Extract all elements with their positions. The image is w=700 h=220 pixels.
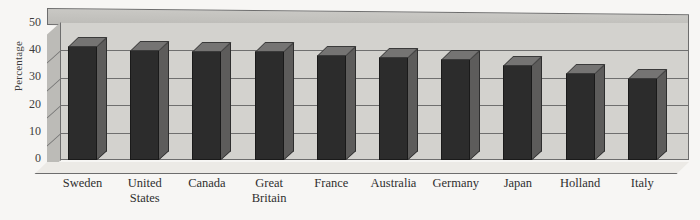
bar-side-face — [470, 50, 480, 160]
x-label-line: States — [106, 191, 184, 206]
y-axis-tick-labels: 50403020100 — [0, 0, 46, 220]
x-label-line: Britain — [230, 191, 308, 206]
bar-australia — [379, 57, 408, 160]
bar-germany — [441, 59, 470, 160]
bar-sweden — [68, 46, 97, 160]
bar-italy — [628, 78, 657, 160]
x-label-italy: Italy — [603, 176, 681, 191]
bar-front-face — [68, 46, 97, 160]
bar-side-face — [284, 42, 294, 160]
bar-japan — [503, 65, 532, 160]
bar-side-face — [532, 56, 542, 160]
bar-front-face — [317, 55, 346, 160]
y-tick-40: 40 — [29, 43, 41, 55]
y-tick-0: 0 — [35, 152, 41, 164]
bar-holland — [566, 73, 595, 160]
bar-side-face — [221, 42, 231, 160]
bar-front-face — [441, 59, 470, 160]
y-tick-30: 30 — [29, 70, 41, 82]
bar-front-face — [192, 51, 221, 160]
bar-side-face — [408, 48, 418, 160]
bar-side-face — [595, 64, 605, 160]
bar-front-face — [255, 51, 284, 160]
bar-great-britain — [255, 51, 284, 160]
bar-chart: Percentage 50403020100 SwedenUnitedState… — [0, 0, 700, 220]
bars-layer — [47, 8, 689, 175]
bar-front-face — [503, 65, 532, 160]
bar-side-face — [657, 69, 667, 160]
y-tick-50: 50 — [29, 16, 41, 28]
bar-front-face — [566, 73, 595, 160]
bar-france — [317, 55, 346, 160]
bar-side-face — [97, 37, 107, 160]
bar-front-face — [628, 78, 657, 160]
bar-front-face — [130, 50, 159, 160]
bar-side-face — [159, 41, 169, 160]
bar-united-states — [130, 50, 159, 160]
x-axis-category-labels: SwedenUnitedStatesCanadaGreatBritainFran… — [47, 176, 689, 220]
bar-front-face — [379, 57, 408, 160]
y-tick-20: 20 — [29, 98, 41, 110]
x-label-line: Italy — [603, 176, 681, 191]
y-tick-10: 10 — [29, 125, 41, 137]
bar-canada — [192, 51, 221, 160]
bar-side-face — [346, 46, 356, 160]
